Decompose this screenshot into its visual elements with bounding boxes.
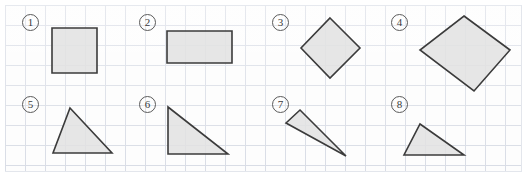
- shapes-worksheet: 1 2 3 4 5 6 7 8: [0, 0, 527, 179]
- shape-label-3: 3: [272, 14, 289, 31]
- shape-label-4: 4: [391, 14, 408, 31]
- shape-2-rectangle[interactable]: [167, 31, 232, 63]
- shape-8-triangle-obtuse[interactable]: [404, 124, 464, 155]
- shape-4-quadrilateral[interactable]: [420, 16, 510, 91]
- shape-label-7: 7: [272, 96, 289, 113]
- shape-6-triangle-right[interactable]: [168, 107, 228, 154]
- shape-label-6: 6: [139, 96, 156, 113]
- shape-label-2: 2: [139, 14, 156, 31]
- shape-1-square[interactable]: [52, 28, 97, 73]
- shape-layer: [0, 0, 527, 179]
- shape-7-triangle-sliver[interactable]: [286, 110, 346, 156]
- shape-label-1: 1: [22, 14, 39, 31]
- shape-5-triangle[interactable]: [53, 108, 112, 153]
- shape-label-5: 5: [22, 96, 39, 113]
- shape-3-square-rotated[interactable]: [301, 18, 360, 78]
- shape-label-8: 8: [391, 96, 408, 113]
